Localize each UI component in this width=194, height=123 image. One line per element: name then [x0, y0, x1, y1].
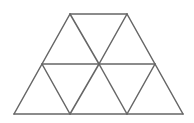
- segment-T2-M2: [99, 14, 127, 64]
- segment-T1-M2: [70, 14, 99, 64]
- segment-M3-B3: [127, 64, 155, 114]
- segment-M1-B2: [42, 64, 70, 114]
- segment-M2-B2: [70, 64, 99, 114]
- triangle-trapezoid-diagram: [0, 0, 194, 123]
- segment-M2-B3: [99, 64, 127, 114]
